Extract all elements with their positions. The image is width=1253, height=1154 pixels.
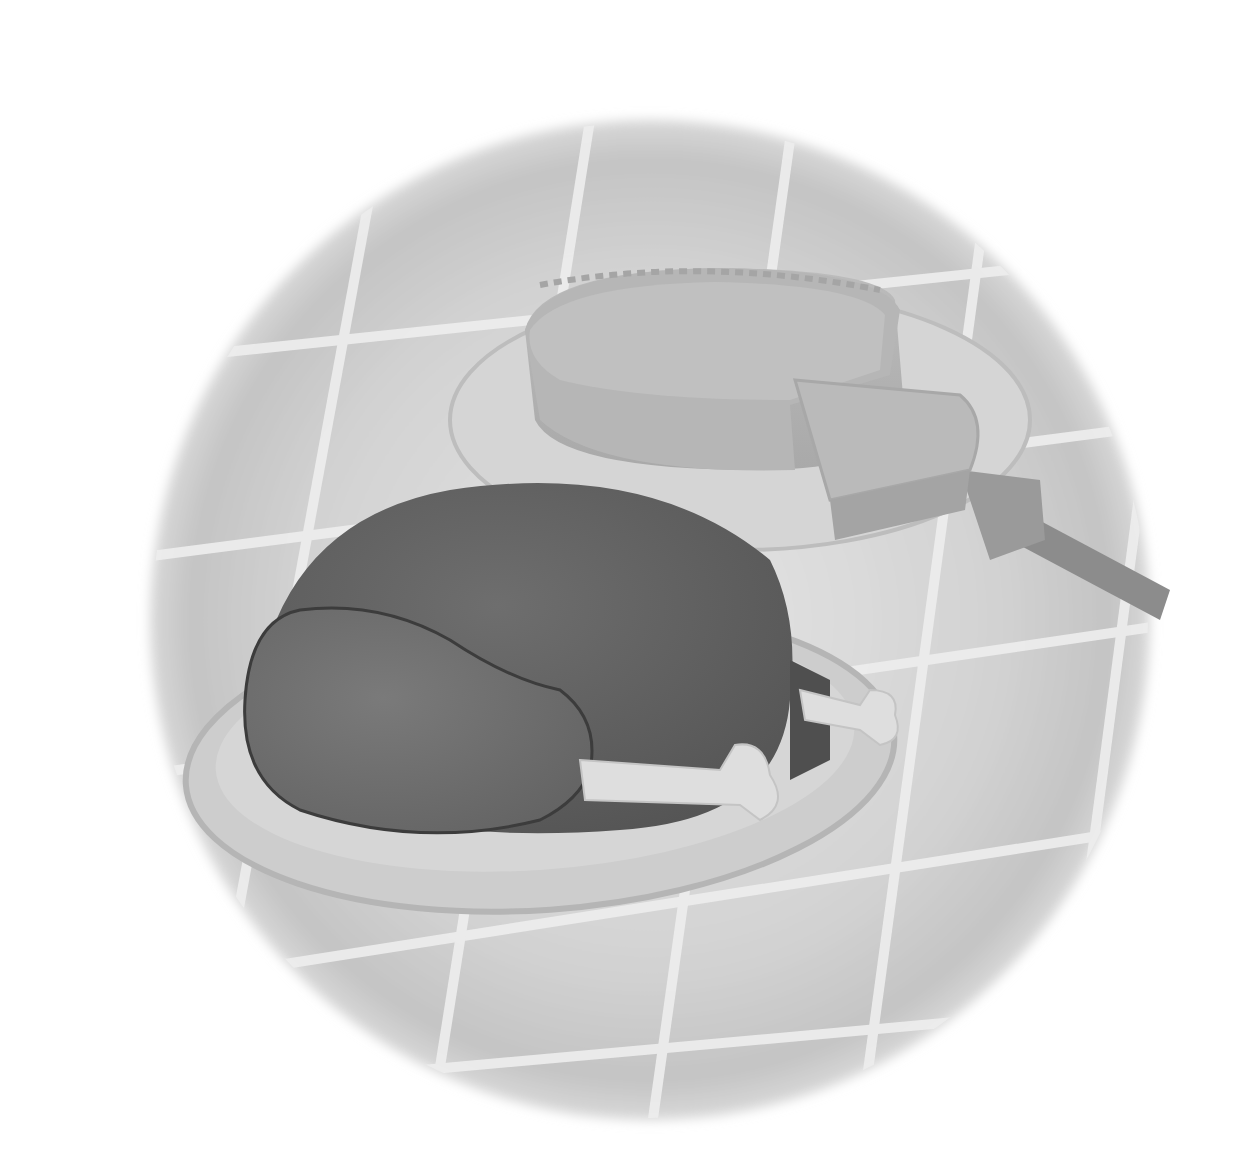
illustration <box>0 0 1253 1154</box>
